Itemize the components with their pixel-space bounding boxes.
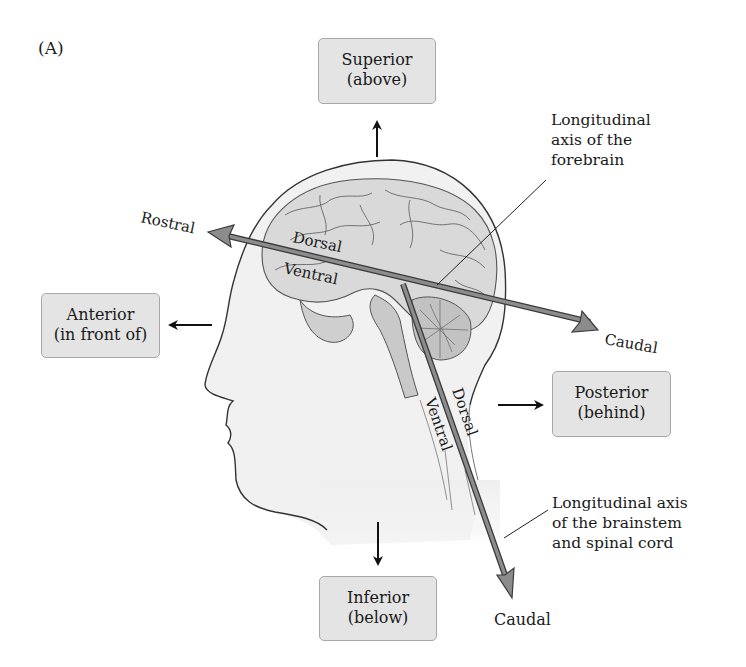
annotation-line: Longitudinal <box>551 110 651 130</box>
forebrain-caudal-label: Caudal <box>603 330 659 357</box>
forebrain-axis-annotation: Longitudinal axis of the forebrain <box>551 110 651 170</box>
inferior-title: Inferior <box>320 588 436 608</box>
superior-subtitle: (above) <box>319 70 435 90</box>
rostral-label: Rostral <box>139 208 197 237</box>
inferior-box: Inferior (below) <box>319 576 437 641</box>
anterior-box: Anterior (in front of) <box>41 293 160 358</box>
superior-box: Superior (above) <box>318 38 436 104</box>
posterior-box: Posterior (behind) <box>552 371 671 437</box>
panel-label: (A) <box>38 38 64 58</box>
brainstem-annotation-leader <box>504 510 548 538</box>
superior-title: Superior <box>319 50 435 70</box>
brainstem-axis-annotation: Longitudinal axis of the brainstem and s… <box>552 493 688 553</box>
annotation-line: axis of the <box>551 130 651 150</box>
brainstem-caudal-label: Caudal <box>494 610 551 630</box>
annotation-line: forebrain <box>551 150 651 170</box>
annotation-line: of the brainstem <box>552 513 688 533</box>
posterior-subtitle: (behind) <box>553 403 670 423</box>
inferior-subtitle: (below) <box>320 608 436 628</box>
anterior-title: Anterior <box>42 305 159 325</box>
annotation-line: and spinal cord <box>552 533 688 553</box>
posterior-title: Posterior <box>553 383 670 403</box>
annotation-line: Longitudinal axis <box>552 493 688 513</box>
anterior-subtitle: (in front of) <box>42 325 159 345</box>
